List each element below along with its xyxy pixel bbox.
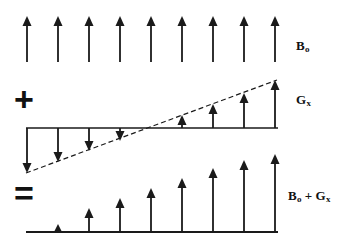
b0-arrowhead-3: [85, 16, 94, 26]
gx-arrowhead-down-2: [54, 152, 63, 162]
b0-arrowhead-5: [147, 16, 156, 26]
b0-arrowhead-4: [116, 16, 125, 26]
label-sum-operator: +: [305, 188, 313, 203]
gx-arrowhead-up-4: [271, 80, 280, 90]
label-gx-subscript: x: [306, 98, 311, 108]
b0-arrowhead-2: [54, 16, 63, 26]
b0-arrowhead-7: [209, 16, 218, 26]
sum-arrowhead-2: [85, 208, 94, 218]
sum-arrowhead-5: [178, 178, 187, 188]
gx-arrowhead-down-3: [85, 141, 94, 151]
sum-arrow-group: [54, 154, 280, 233]
label-sum-first-subscript: o: [297, 194, 302, 204]
b0-arrow-group: [23, 16, 280, 62]
sum-arrowhead-4: [147, 188, 156, 198]
b0-arrowhead-9: [271, 16, 280, 26]
b0-arrowhead-8: [240, 16, 249, 26]
sum-arrowhead-6: [209, 168, 218, 178]
equals-operator: =: [14, 176, 34, 210]
label-sum-second: G: [316, 188, 326, 203]
gx-negative-arrows: [23, 128, 125, 173]
panel-b0: [23, 16, 280, 62]
sum-arrowhead-1: [54, 224, 63, 233]
label-gx: Gx: [296, 92, 311, 108]
b0-arrowhead-6: [178, 16, 187, 26]
gx-arrowhead-up-3: [240, 93, 249, 103]
label-sum-second-subscript: x: [326, 194, 331, 204]
sum-arrowhead-8: [271, 154, 280, 164]
panel-gx: [23, 80, 280, 173]
label-sum: Bo+Gx: [288, 188, 331, 204]
sum-arrowhead-7: [240, 160, 249, 170]
label-sum-first: B: [288, 188, 297, 203]
label-b0-text: B: [296, 38, 305, 53]
gx-positive-arrows: [178, 80, 280, 128]
label-gx-text: G: [296, 92, 306, 107]
gx-gradient-dashed-line: [26, 80, 277, 173]
b0-arrowhead-1: [23, 16, 32, 26]
panel-sum: [26, 154, 280, 233]
label-b0: Bo: [296, 38, 310, 54]
sum-arrowhead-3: [116, 198, 125, 208]
plus-operator: +: [14, 82, 34, 116]
label-b0-subscript: o: [305, 44, 310, 54]
